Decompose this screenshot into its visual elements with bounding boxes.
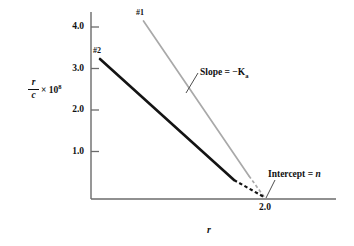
y-axis-title: r c × 108 <box>28 78 62 100</box>
slope-annotation-subscript: a <box>245 72 248 79</box>
y-axis-exponent: 8 <box>58 83 61 90</box>
plot-canvas <box>0 0 354 246</box>
slope-annotation-leader <box>186 73 198 93</box>
slope-annotation-text: Slope = −K <box>200 67 245 77</box>
y-axis-factor-group: × 108 <box>41 83 62 95</box>
x-tick-label-2-0: 2.0 <box>252 203 278 213</box>
series-line-1-dashed-tail <box>249 176 265 198</box>
series-label-2: #2 <box>93 47 101 55</box>
y-tick-label-2: 2.0 <box>58 105 84 115</box>
intercept-annotation-text: Intercept = <box>268 169 315 179</box>
intercept-annotation-leader <box>266 180 275 198</box>
series-label-1: #1 <box>136 9 144 17</box>
slope-annotation: Slope = −Ka <box>200 68 248 79</box>
y-tick-label-1: 1.0 <box>58 147 84 157</box>
intercept-annotation: Intercept = n <box>268 170 321 180</box>
x-axis-title: r <box>207 225 211 235</box>
scatchard-plot-figure: r c × 108 4.0 3.0 2.0 1.0 2.0 r #1 #2 Sl… <box>0 0 354 246</box>
y-axis-fraction: r c <box>28 78 39 100</box>
y-tick-label-4: 4.0 <box>58 22 84 32</box>
intercept-annotation-value: n <box>315 169 320 179</box>
y-axis-numerator: r <box>30 78 38 89</box>
y-axis-denominator: c <box>29 90 37 101</box>
y-axis-factor: × 10 <box>41 85 58 95</box>
series-line-1 <box>144 21 250 176</box>
series-line-2-dashed-tail <box>234 180 264 197</box>
y-tick-label-3: 3.0 <box>58 64 84 74</box>
